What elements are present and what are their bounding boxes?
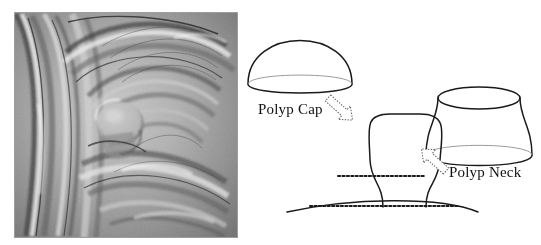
endoscopic-rendering-image — [14, 12, 238, 238]
figure-root: Polyp Cap Polyp Neck — [0, 0, 541, 245]
neck-right-profile — [520, 98, 532, 155]
diagram-svg — [240, 0, 541, 245]
endoscopy-svg — [14, 12, 238, 238]
neck-top-ellipse — [438, 87, 520, 109]
polyp-schematic-diagram — [240, 0, 541, 245]
polyp-cap-shape — [248, 41, 352, 94]
arrow-to-cap — [322, 91, 359, 126]
cap-base-back-arc — [248, 75, 352, 84]
texture-grain — [14, 12, 238, 238]
label-polyp-neck: Polyp Neck — [449, 164, 521, 181]
label-polyp-cap: Polyp Cap — [258, 101, 323, 118]
polyp-neck-shape — [426, 87, 532, 166]
neck-left-profile — [426, 98, 438, 155]
cap-base-front-arc — [248, 84, 352, 93]
